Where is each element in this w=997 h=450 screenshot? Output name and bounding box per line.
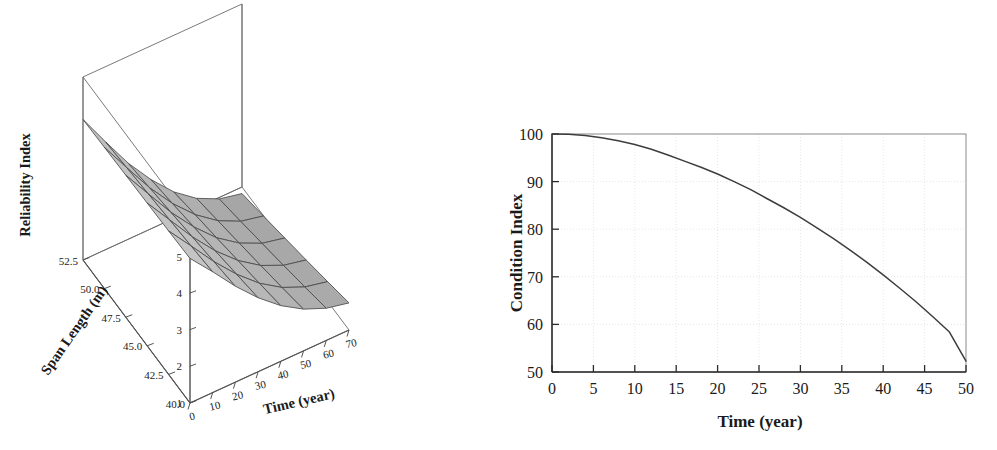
x-tick-label: 50 xyxy=(299,357,313,371)
y-axis-tick xyxy=(83,258,90,261)
x-tick-label: 0 xyxy=(548,380,556,397)
y-tick-label: 45.0 xyxy=(123,340,143,352)
back-wall-left xyxy=(83,77,190,403)
plot-frame xyxy=(552,134,966,372)
z-tick-label: 5 xyxy=(177,251,183,263)
z-axis-title: Reliability Index xyxy=(17,132,33,236)
surface-patch xyxy=(104,147,148,194)
y-tick-label: 80 xyxy=(527,221,543,238)
y-axis-title: Span Length (m) xyxy=(37,283,111,379)
line-plot-graphics: 506070809010005101520253035404550 xyxy=(519,126,974,397)
y-axis-tick xyxy=(104,286,111,289)
y-tick-label: 40.0 xyxy=(166,398,186,410)
y-tick-label: 70 xyxy=(527,269,543,286)
x-tick-label: 45 xyxy=(917,380,933,397)
x-tick-label: 40 xyxy=(276,367,290,381)
x-tick-label: 0 xyxy=(188,410,197,423)
z-tick-label: 4 xyxy=(177,287,183,299)
y-axis-tick xyxy=(169,372,176,375)
y-tick-label: 42.5 xyxy=(144,369,164,381)
x-tick-label: 50 xyxy=(958,380,974,397)
y-tick-label: 50 xyxy=(527,364,543,381)
x-tick-label: 10 xyxy=(627,380,643,397)
x-tick-label: 10 xyxy=(208,398,222,412)
line-plot-panel: 506070809010005101520253035404550 Condit… xyxy=(497,0,997,450)
z-tick-label: 3 xyxy=(177,324,183,336)
z-tick-label: 2 xyxy=(177,360,183,372)
x-axis-tick xyxy=(188,403,190,410)
surface-plot-svg: 12345652.550.047.545.042.540.00102030405… xyxy=(0,0,500,450)
x-tick-label: 25 xyxy=(751,380,767,397)
x-tick-label: 20 xyxy=(710,380,726,397)
x-tick-label: 60 xyxy=(322,346,336,360)
x-tick-label: 30 xyxy=(254,378,268,392)
surface-patch xyxy=(106,142,150,188)
line-x-axis-title: Time (year) xyxy=(717,412,802,431)
grid-lines xyxy=(552,134,966,372)
surface-plot-graphics: 12345652.550.047.545.042.540.00102030405… xyxy=(59,4,359,423)
y-tick-label: 90 xyxy=(527,174,543,191)
y-tick-label: 52.5 xyxy=(59,255,79,267)
surface-mesh xyxy=(83,119,349,309)
surface-plot-panel: 12345652.550.047.545.042.540.00102030405… xyxy=(0,0,500,450)
x-tick-label: 40 xyxy=(875,380,891,397)
x-tick-label: 15 xyxy=(668,380,684,397)
line-plot-svg: 506070809010005101520253035404550 Condit… xyxy=(497,0,997,450)
y-tick-label: 100 xyxy=(519,126,543,143)
figure-container: 12345652.550.047.545.042.540.00102030405… xyxy=(0,0,997,450)
y-tick-label: 47.5 xyxy=(102,312,122,324)
y-axis-tick xyxy=(126,315,133,318)
x-tick-label: 5 xyxy=(589,380,597,397)
y-tick-label: 60 xyxy=(527,316,543,333)
line-y-axis-title: Condition Index xyxy=(507,193,526,312)
y-axis-line xyxy=(83,260,190,403)
x-tick-label: 20 xyxy=(231,388,245,402)
x-tick-label: 35 xyxy=(834,380,850,397)
x-tick-label: 70 xyxy=(344,336,358,350)
x-axis-title: Time (year) xyxy=(262,385,337,418)
x-tick-label: 30 xyxy=(792,380,808,397)
y-axis-tick xyxy=(147,343,154,346)
